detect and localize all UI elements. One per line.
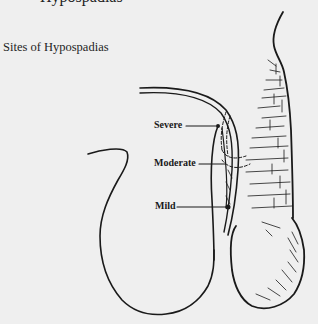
label-mild: Mild (155, 200, 176, 211)
label-severe: Severe (154, 119, 182, 130)
label-moderate: Moderate (154, 157, 196, 168)
shaft-outline (273, 12, 293, 218)
scrotum-outline (88, 149, 214, 315)
shaft-inner-outline (211, 126, 218, 260)
